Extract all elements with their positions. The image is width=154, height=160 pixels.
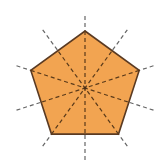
pentagon-symmetry-diagram bbox=[0, 0, 154, 160]
center-point bbox=[84, 87, 87, 90]
